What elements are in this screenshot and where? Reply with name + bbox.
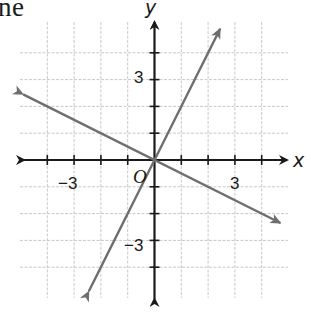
x-tick-label-neg3: −3: [58, 174, 77, 193]
origin-label: O: [133, 166, 147, 187]
y-tick-label-neg3: −3: [124, 236, 143, 255]
coordinate-plane: x y O −3 3 3 −3: [0, 0, 311, 318]
y-axis-label: y: [144, 0, 157, 18]
x-tick-label-3: 3: [230, 174, 239, 193]
graph-figure: ne x y O −3 3 3 −3: [0, 0, 311, 318]
line-shallow: [23, 94, 280, 223]
y-tick-label-3: 3: [134, 68, 143, 87]
x-axis-label: x: [292, 149, 305, 171]
